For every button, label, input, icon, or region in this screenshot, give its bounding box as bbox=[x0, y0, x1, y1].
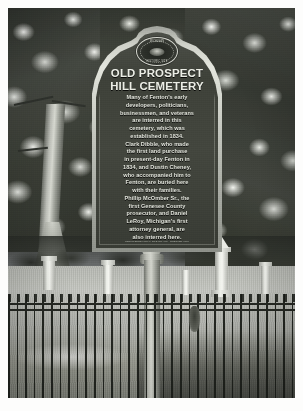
headstone bbox=[103, 264, 113, 294]
marker-body-line: with their families. bbox=[100, 187, 214, 195]
marker-title-line-1: OLD PROSPECT bbox=[98, 67, 216, 80]
fence-upper-rail bbox=[8, 309, 295, 311]
headstone-cap bbox=[101, 260, 115, 265]
headstone-cap bbox=[41, 256, 57, 261]
marker-body-line: Clark Dibble, who made bbox=[100, 141, 214, 149]
marker-fineprint: REGISTERED LOCAL SITE NO. 000 · ERECTED … bbox=[106, 240, 208, 243]
seal-text-bottom: HISTORIC SITE bbox=[137, 60, 177, 63]
marker-body-line: businessmen, and veterans bbox=[100, 110, 214, 118]
marker-body-line: in present-day Fenton in bbox=[100, 156, 214, 164]
marker-title: OLD PROSPECT HILL CEMETERY bbox=[98, 67, 216, 92]
marker-body-line: LeRoy, Michigan's first bbox=[100, 218, 214, 226]
headstone-cap bbox=[259, 262, 272, 266]
iron-fence bbox=[8, 294, 295, 398]
fence-spear-tips bbox=[8, 294, 295, 302]
marker-body-line: are interred in this bbox=[100, 117, 214, 125]
obelisk-monument bbox=[215, 248, 228, 296]
marker-body-line: Many of Fenton's early bbox=[100, 94, 214, 102]
headstone bbox=[43, 260, 55, 290]
marker-body-line: prosecutor, and Daniel bbox=[100, 210, 214, 218]
fence-top-rail bbox=[8, 303, 295, 305]
headstone bbox=[182, 270, 190, 295]
marker-body-line: 1834, and Dustin Cheney, bbox=[100, 164, 214, 172]
marker-body-line: the first land purchase bbox=[100, 148, 214, 156]
marker-body-line: established in 1834. bbox=[100, 133, 214, 141]
marker-title-line-2: HILL CEMETERY bbox=[98, 80, 216, 93]
marker-body-text: Many of Fenton's earlydevelopers, politi… bbox=[100, 94, 214, 241]
fence-vine bbox=[189, 306, 200, 332]
marker-body-line: first Genesee County bbox=[100, 203, 214, 211]
state-seal-icon: MICHIGAN HISTORIC SITE bbox=[136, 37, 178, 66]
marker-body-line: Phillip McOmber Sr., the bbox=[100, 195, 214, 203]
marker-body-line: who accompanied him to bbox=[100, 172, 214, 180]
historical-marker[interactable]: MICHIGAN HISTORIC SITE OLD PROSPECT HILL… bbox=[92, 26, 222, 252]
headstone bbox=[261, 266, 270, 294]
marker-body-line: cemetery, which was bbox=[100, 125, 214, 133]
seal-core bbox=[150, 48, 165, 56]
photo-mount: MICHIGAN HISTORIC SITE OLD PROSPECT HILL… bbox=[0, 0, 303, 411]
marker-body-line: attorney general, are bbox=[100, 226, 214, 234]
seal-text-top: MICHIGAN bbox=[137, 40, 177, 43]
marker-body-line: Fenton, are buried here bbox=[100, 179, 214, 187]
photograph: MICHIGAN HISTORIC SITE OLD PROSPECT HILL… bbox=[8, 8, 295, 398]
marker-body-line: developers, politicians, bbox=[100, 102, 214, 110]
